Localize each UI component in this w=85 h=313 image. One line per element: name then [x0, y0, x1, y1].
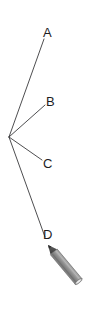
ray-line-d [9, 137, 45, 237]
ray-label-c: C [43, 157, 52, 170]
pencil-group [45, 242, 83, 285]
ray-label-b: B [46, 95, 55, 108]
ray-line-a [9, 39, 44, 137]
figure-canvas: A B C D [0, 0, 85, 313]
pencil-body [50, 249, 82, 285]
ray-label-a: A [43, 26, 52, 39]
ray-line-c [9, 137, 42, 160]
ray-label-d: D [43, 228, 52, 241]
